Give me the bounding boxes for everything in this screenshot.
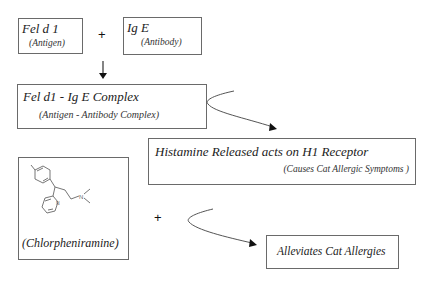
down-arrow-icon — [99, 61, 107, 79]
curved-arrow-icon — [207, 91, 277, 131]
arrows-layer — [0, 0, 432, 281]
curved-arrow-icon — [188, 209, 257, 247]
